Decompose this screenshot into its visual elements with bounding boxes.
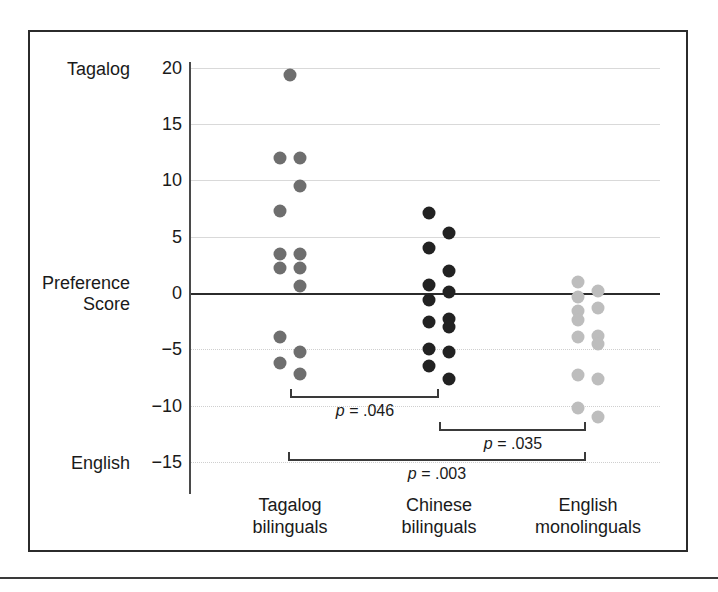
- data-point: [294, 152, 307, 165]
- data-point: [423, 207, 436, 220]
- data-point: [443, 264, 456, 277]
- figure-frame: 20 15 10 5 0 −5 −10 −15 Tagalog Preferen…: [28, 30, 688, 552]
- data-point: [592, 337, 605, 350]
- data-point: [294, 180, 307, 193]
- bottom-divider: [0, 577, 718, 579]
- p-value-2: = .035: [493, 435, 542, 452]
- data-point: [294, 368, 307, 381]
- ytick-label-0: 0: [138, 284, 182, 302]
- significance-label-1: p = .046: [336, 402, 394, 420]
- data-point: [572, 401, 585, 414]
- data-point: [423, 360, 436, 373]
- ytick-label-15: 15: [138, 115, 182, 133]
- category-label-tagalog-line2: bilinguals: [252, 516, 327, 538]
- gridline-10: [190, 180, 660, 181]
- data-point: [443, 345, 456, 358]
- data-point: [423, 316, 436, 329]
- ytick-label-minus10: −10: [138, 397, 182, 415]
- y-axis-line: [189, 62, 191, 494]
- gridline-5: [190, 237, 660, 238]
- data-point: [274, 247, 287, 260]
- data-point: [572, 369, 585, 382]
- data-point: [572, 290, 585, 303]
- data-point: [572, 314, 585, 327]
- gridline-20: [190, 68, 660, 69]
- y-axis-title: Preference Score: [0, 273, 130, 315]
- p-value-3: = .003: [417, 465, 466, 482]
- data-point: [443, 227, 456, 240]
- plot-area: 20 15 10 5 0 −5 −10 −15 Tagalog Preferen…: [30, 32, 690, 554]
- data-point: [423, 279, 436, 292]
- data-point: [423, 293, 436, 306]
- data-point: [294, 280, 307, 293]
- ytick-label-5: 5: [138, 228, 182, 246]
- category-label-chinese-line1: Chinese: [401, 494, 476, 516]
- data-point: [284, 68, 297, 81]
- data-point: [274, 262, 287, 275]
- category-label-tagalog: Tagalog bilinguals: [252, 494, 327, 538]
- significance-label-3: p = .003: [408, 465, 466, 483]
- data-point: [592, 284, 605, 297]
- significance-bracket-1: [290, 389, 439, 398]
- ytick-label-minus15: −15: [138, 453, 182, 471]
- data-point: [423, 242, 436, 255]
- category-label-tagalog-line1: Tagalog: [252, 494, 327, 516]
- data-point: [423, 343, 436, 356]
- significance-bracket-2: [439, 422, 586, 431]
- significance-label-2: p = .035: [484, 435, 542, 453]
- data-point: [443, 320, 456, 333]
- axis-anchor-bottom-label: English: [0, 453, 130, 474]
- p-symbol-2: p: [484, 435, 493, 452]
- data-point: [274, 204, 287, 217]
- ytick-label-10: 10: [138, 171, 182, 189]
- ytick-label-20: 20: [138, 59, 182, 77]
- axis-anchor-top-label: Tagalog: [0, 59, 130, 80]
- significance-bracket-3: [288, 452, 586, 461]
- gridline-15: [190, 124, 660, 125]
- data-point: [294, 345, 307, 358]
- data-point: [274, 356, 287, 369]
- p-symbol-3: p: [408, 465, 417, 482]
- category-label-english-line2: monolinguals: [535, 516, 641, 538]
- data-point: [443, 372, 456, 385]
- category-label-english: English monolinguals: [535, 494, 641, 538]
- data-point: [572, 331, 585, 344]
- p-symbol-1: p: [336, 402, 345, 419]
- y-axis-title-line1: Preference Score: [42, 273, 130, 314]
- data-point: [274, 331, 287, 344]
- data-point: [592, 301, 605, 314]
- data-point: [274, 152, 287, 165]
- data-point: [592, 372, 605, 385]
- category-label-chinese-line2: bilinguals: [401, 516, 476, 538]
- category-label-chinese: Chinese bilinguals: [401, 494, 476, 538]
- data-point: [294, 262, 307, 275]
- data-point: [443, 286, 456, 299]
- category-label-english-line1: English: [535, 494, 641, 516]
- data-point: [294, 247, 307, 260]
- p-value-1: = .046: [345, 402, 394, 419]
- data-point: [572, 275, 585, 288]
- ytick-label-minus5: −5: [138, 340, 182, 358]
- gridline-minus15: [190, 462, 660, 463]
- data-point: [592, 410, 605, 423]
- gridline-minus10: [190, 406, 660, 407]
